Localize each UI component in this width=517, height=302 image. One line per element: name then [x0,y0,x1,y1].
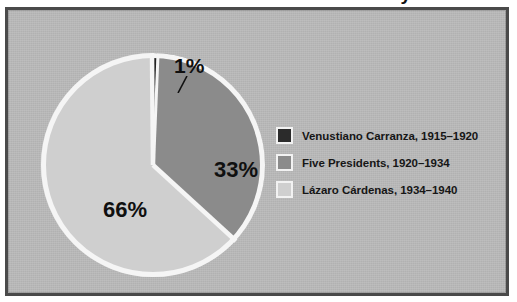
page-title: Mexican Presidents of the Revolutionary … [41,0,476,5]
legend-label-lazaro-cardenas: Lázaro Cárdenas, 1934–1940 [302,184,457,196]
legend-label-five-presidents: Five Presidents, 1920–1934 [302,157,450,169]
legend-label-venustiano-carranza: Venustiano Carranza, 1915–1920 [302,130,478,142]
legend-item-five-presidents[interactable]: Five Presidents, 1920–1934 [276,149,512,176]
pie-chart: 1% 33% 66% [36,45,274,285]
legend-swatch-icon-five-presidents [276,154,293,171]
legend: Venustiano Carranza, 1915–1920 Five Pres… [276,122,512,203]
chart-panel: 1% 33% 66% Venustiano Carranza, 1915–192… [5,7,509,296]
chart-title-cropped: Mexican Presidents of the Revolutionary … [0,0,517,7]
legend-item-venustiano-carranza[interactable]: Venustiano Carranza, 1915–1920 [276,122,512,149]
pie-label-66-percent: 66% [103,199,147,221]
pie-label-33-percent: 33% [214,159,258,181]
legend-item-lazaro-cardenas[interactable]: Lázaro Cárdenas, 1934–1940 [276,176,512,203]
pie-label-1-percent: 1% [174,55,204,76]
legend-swatch-icon-lazaro-cardenas [276,181,293,198]
legend-swatch-icon-venustiano-carranza [276,127,293,144]
